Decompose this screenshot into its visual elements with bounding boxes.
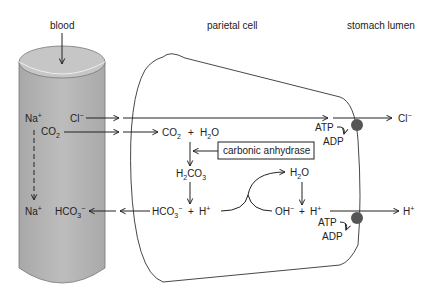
plus-3: + bbox=[299, 206, 305, 217]
blood-vessel-cylinder bbox=[19, 46, 105, 283]
oh-curve bbox=[248, 195, 272, 211]
atp-top: ATP bbox=[315, 122, 334, 133]
parietal-cell-label: parietal cell bbox=[207, 20, 258, 31]
proton-pump bbox=[351, 212, 363, 224]
stomach-lumen-label: stomach lumen bbox=[347, 20, 415, 31]
hco3-blood: HCO3− bbox=[55, 205, 85, 219]
plus-2: + bbox=[188, 206, 194, 217]
oh-ion: OH− bbox=[275, 205, 294, 217]
plus-1: + bbox=[188, 127, 194, 138]
h-ion-lumen: H+ bbox=[403, 205, 414, 217]
h-ion-right: H+ bbox=[310, 205, 321, 217]
adp-bottom: ADP bbox=[322, 231, 343, 242]
cl-pump bbox=[351, 119, 363, 131]
gastric-acid-diagram: blood parietal cell stomach lumen Na+ Na… bbox=[0, 0, 435, 302]
adp-top: ADP bbox=[323, 136, 344, 147]
blood-label: blood bbox=[50, 20, 74, 31]
h2o-right: H2O bbox=[290, 167, 309, 180]
atp-adp-arrow-bottom bbox=[340, 222, 347, 230]
h-ion-cell: H+ bbox=[199, 205, 210, 217]
h2o-cell: H2O bbox=[200, 127, 219, 140]
cl-ion-lumen: Cl− bbox=[398, 112, 412, 124]
atp-adp-arrow-top bbox=[337, 127, 344, 134]
hco3-cell: HCO3− bbox=[152, 205, 182, 219]
carbonic-anhydrase-label: carbonic anhydrase bbox=[223, 145, 311, 156]
co2-cell: CO2 bbox=[162, 127, 181, 140]
h2co3: H2CO3 bbox=[176, 168, 206, 181]
parietal-cell-outline bbox=[131, 54, 360, 282]
atp-bottom: ATP bbox=[318, 217, 337, 228]
